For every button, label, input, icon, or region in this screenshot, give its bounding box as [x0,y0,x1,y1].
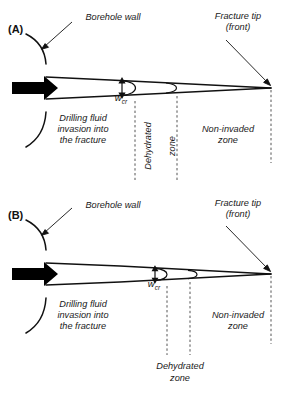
injection-arrow [12,76,58,100]
fracture-face-upper [46,77,271,88]
fluid-front-curve-2 [166,83,177,93]
panel-a-borehole-wall-label: Borehole wall [55,12,171,23]
fluid-front-curve-2 [188,270,197,278]
fracture-tip-leader [226,40,271,86]
panel-b-wcr-label: wcr [132,267,160,302]
figure-root: (A) Borehole wall Fracture tip (front) w… [0,0,291,403]
panel-a: (A) Borehole wall Fracture tip (front) w… [0,0,291,200]
panel-a-fracture-tip-label: Fracture tip [193,11,283,22]
panel-b-borehole-wall-label: Borehole wall [55,200,171,211]
injection-arrow [12,262,58,286]
panel-a-dehydrated-zone-label-line1: Dehydrated [143,111,155,181]
panel-b-fracture-front-label: (front) [193,209,283,220]
panel-a-wcr-symbol: w [115,92,122,103]
panel-b-dehydrated-zone-label-line1: Dehydrated [132,361,228,372]
panel-a-invasion-label: Drilling fluidinvasion intothe fracture [33,113,133,147]
panel-b-wcr-symbol: w [148,278,155,289]
panel-b-dehydrated-zone-label-line2: zone [132,373,228,384]
borehole-wall-leader [42,208,73,235]
fracture-face-lower [46,88,271,99]
panel-b-invasion-label: Drilling fluidinvasion intothe fracture [33,299,133,333]
panel-b: (B) Borehole wall Fracture tip (front) w… [0,198,291,403]
panel-a-wcr-label: wcr [99,81,127,116]
panel-a-tag: (A) [8,23,23,35]
panel-a-dehydrated-zone-label-line2: zone [167,111,179,181]
panel-a-fracture-front-label: (front) [193,22,283,33]
borehole-wall-leader [42,22,73,49]
panel-b-fracture-tip-label: Fracture tip [193,198,283,209]
panel-b-tag: (B) [8,209,23,221]
panel-a-non-invaded-label: Non-invadedzone [186,124,270,146]
panel-b-wcr-subscript: cr [155,284,160,291]
panel-b-non-invaded-label: Non-invadedzone [196,310,280,332]
panel-a-wcr-subscript: cr [122,98,127,105]
fracture-tip-leader [226,226,271,272]
